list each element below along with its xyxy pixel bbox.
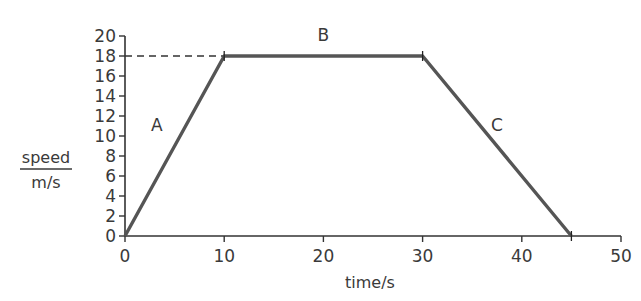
y-tick-label: 12 [94, 106, 116, 126]
y-tick-label: 16 [94, 66, 116, 86]
segment-label-a: A [151, 115, 163, 135]
segment-label-b: B [318, 25, 330, 45]
x-tick-label: 0 [120, 246, 131, 266]
y-axis-title-denominator: m/s [31, 173, 60, 192]
y-tick-label: 0 [105, 226, 116, 246]
y-axis-title-numerator: speed [22, 148, 70, 167]
speed-time-graph: 0246810121416182001020304050 ABC speed m… [0, 0, 641, 301]
y-tick-label: 18 [94, 46, 116, 66]
y-tick-label: 6 [105, 166, 116, 186]
x-tick-label: 40 [511, 246, 533, 266]
segment-label-c: C [491, 115, 503, 135]
x-tick-label: 30 [412, 246, 434, 266]
x-tick-label: 20 [313, 246, 335, 266]
segment-labels: ABC [151, 25, 503, 135]
x-tick-label: 50 [610, 246, 632, 266]
y-tick-label: 8 [105, 146, 116, 166]
speed-series-line [125, 56, 571, 236]
x-tick-label: 10 [213, 246, 235, 266]
y-tick-label: 14 [94, 86, 116, 106]
y-tick-label: 20 [94, 26, 116, 46]
x-axis-title: time/s [345, 273, 395, 292]
y-tick-label: 4 [105, 186, 116, 206]
y-tick-label: 10 [94, 126, 116, 146]
y-tick-label: 2 [105, 206, 116, 226]
speed-line [125, 51, 571, 241]
